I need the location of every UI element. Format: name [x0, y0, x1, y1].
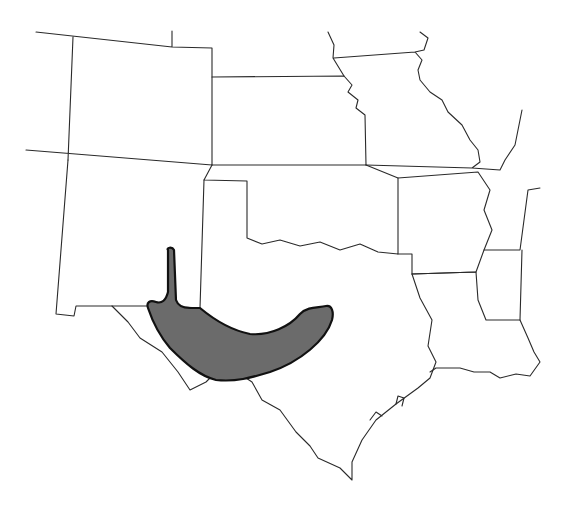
border-new-mexico — [56, 160, 204, 316]
border-kansas — [212, 76, 366, 165]
coastline-detail — [370, 396, 404, 420]
border-oklahoma — [204, 165, 398, 254]
border-colorado — [26, 31, 212, 165]
border-missouri — [328, 32, 522, 170]
species-range-shading — [147, 248, 332, 381]
range-map — [0, 0, 569, 518]
state-borders — [26, 31, 540, 480]
border-arkansas — [398, 172, 492, 274]
border-mississippi — [484, 188, 540, 320]
